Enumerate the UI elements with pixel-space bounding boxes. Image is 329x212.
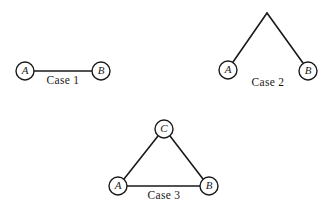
node-label-case3-b: B — [206, 179, 213, 191]
case-1-group: A B Case 1 — [16, 62, 110, 86]
node-label-case2-a: A — [224, 63, 232, 75]
node-case2-b: B — [299, 62, 317, 80]
node-case1-a: A — [16, 62, 34, 80]
edge-case3-c-a — [124, 136, 158, 179]
edge-case2-apex-a — [233, 13, 267, 62]
node-case3-c: C — [155, 120, 173, 138]
case-3-caption: Case 3 — [148, 189, 181, 201]
node-case1-b: B — [92, 62, 110, 80]
node-label-case1-b: B — [98, 64, 105, 76]
node-label-case1-a: A — [21, 64, 29, 76]
edge-case3-c-b — [170, 136, 203, 179]
node-label-case3-a: A — [114, 179, 122, 191]
node-label-case2-b: B — [305, 64, 312, 76]
graph-cases-figure: A B Case 1 A B Case 2 C A — [0, 0, 329, 212]
case-1-caption: Case 1 — [47, 74, 80, 86]
node-case3-b: B — [200, 177, 218, 195]
case-3-group: C A B Case 3 — [109, 120, 218, 201]
edge-case2-apex-b — [267, 13, 303, 63]
node-label-case3-c: C — [160, 122, 168, 134]
case-2-group: A B Case 2 — [219, 13, 317, 88]
case-2-caption: Case 2 — [252, 76, 285, 88]
node-case2-a: A — [219, 61, 237, 79]
node-case3-a: A — [109, 177, 127, 195]
